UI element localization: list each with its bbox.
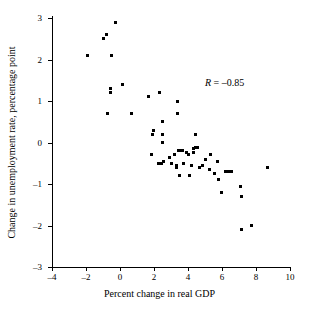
data-point [168, 156, 171, 159]
y-tick-label: –2 [33, 221, 42, 230]
data-point [217, 178, 220, 181]
data-point [192, 151, 195, 154]
data-point [102, 37, 105, 40]
data-point [201, 164, 204, 167]
figure-caption [0, 313, 319, 320]
x-tick: 2 [154, 267, 155, 271]
data-point [230, 170, 233, 173]
data-point [121, 83, 124, 86]
data-point [213, 172, 216, 175]
y-tick: 3 [48, 18, 52, 19]
correlation-value: = –0.85 [211, 77, 244, 88]
data-point [106, 112, 109, 115]
data-point [175, 166, 178, 169]
y-tick-label: 1 [38, 97, 43, 106]
data-point [187, 153, 190, 156]
data-point [181, 149, 184, 152]
data-point [161, 141, 164, 144]
data-point [220, 191, 223, 194]
data-point [130, 112, 133, 115]
data-point [188, 174, 191, 177]
y-tick: –2 [48, 226, 52, 227]
y-axis-label: Change in unemployment rate, percentage … [6, 18, 20, 267]
y-tick-label: 0 [38, 138, 43, 147]
data-point [151, 133, 154, 136]
x-tick-label: 10 [286, 273, 295, 282]
data-point [173, 153, 176, 156]
x-tick-label: 8 [254, 273, 259, 282]
x-axis-label: Percent change in real GDP [0, 288, 319, 299]
x-tick: –2 [86, 267, 87, 271]
y-tick-label: –3 [33, 263, 42, 272]
data-point [176, 112, 179, 115]
x-tick: 4 [188, 267, 189, 271]
x-tick-label: –2 [82, 273, 91, 282]
data-point [239, 185, 242, 188]
scatter-chart-figure: –3–2–10123 –4–20246810 R = –0.85 Percent… [0, 0, 319, 320]
y-tick: 2 [48, 60, 52, 61]
data-point [109, 91, 112, 94]
x-tick: 8 [256, 267, 257, 271]
data-point [194, 133, 197, 136]
data-point [216, 160, 219, 163]
data-point [147, 95, 150, 98]
data-point [266, 166, 269, 169]
x-tick: –4 [52, 267, 53, 271]
y-tick-label: –1 [33, 180, 42, 189]
data-point [209, 153, 212, 156]
plot-area: –3–2–10123 –4–20246810 [52, 18, 290, 267]
data-point [150, 153, 153, 156]
data-point [204, 158, 207, 161]
data-point [208, 168, 211, 171]
x-tick: 10 [290, 267, 291, 271]
y-tick-label: 3 [38, 14, 43, 23]
data-point [152, 129, 155, 132]
data-point [170, 162, 173, 165]
data-point [105, 33, 108, 36]
data-point [240, 195, 243, 198]
x-tick: 0 [120, 267, 121, 271]
data-point [86, 54, 89, 57]
x-tick-label: 0 [118, 273, 123, 282]
x-tick-label: 6 [220, 273, 225, 282]
x-tick: 6 [222, 267, 223, 271]
data-point [161, 133, 164, 136]
data-point [250, 224, 253, 227]
x-tick-label: 4 [186, 273, 191, 282]
data-point [158, 91, 161, 94]
data-point [109, 87, 112, 90]
y-tick: 1 [48, 101, 52, 102]
x-tick-label: 2 [152, 273, 157, 282]
correlation-annotation: R = –0.85 [205, 77, 244, 88]
y-tick-label: 2 [38, 55, 43, 64]
data-point [182, 162, 185, 165]
y-tick: –1 [48, 184, 52, 185]
data-point [196, 146, 199, 149]
data-point [176, 100, 179, 103]
data-point [162, 160, 165, 163]
data-point [240, 228, 243, 231]
data-point [178, 174, 181, 177]
x-tick-label: –4 [48, 273, 57, 282]
y-tick: 0 [48, 143, 52, 144]
data-point [110, 54, 113, 57]
data-point [161, 120, 164, 123]
data-point [114, 21, 117, 24]
data-point [190, 164, 193, 167]
